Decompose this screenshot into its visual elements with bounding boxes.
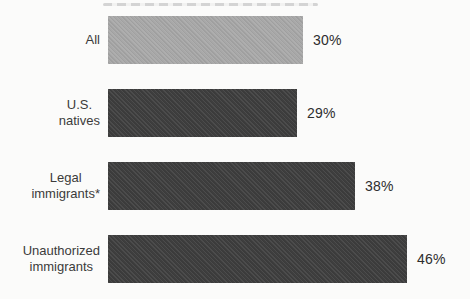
bar-area: 46% (108, 235, 470, 283)
category-label-us-natives: U.S. natives (0, 97, 108, 129)
value-label-all: 30% (313, 32, 342, 48)
category-label-legal-immigrants: Legal immigrants* (0, 170, 108, 202)
bar-all (108, 16, 303, 64)
bar-area: 38% (108, 162, 470, 210)
category-label-line: natives (59, 113, 100, 129)
category-label-all: All (0, 32, 108, 48)
category-label-unauthorized-immigrants: Unauthorized immigrants (0, 243, 108, 275)
bar-row-all: All 30% (0, 16, 470, 64)
category-label-line: Unauthorized (23, 243, 100, 259)
category-label-line: Legal (31, 170, 100, 186)
category-label-line: immigrants* (31, 186, 100, 202)
cropped-title-artifact (103, 3, 318, 6)
bar-area: 29% (108, 89, 470, 137)
value-label-us-natives: 29% (307, 105, 336, 121)
value-label-legal-immigrants: 38% (365, 178, 394, 194)
category-label-line: immigrants (23, 259, 100, 275)
bar-unauthorized-immigrants (108, 235, 407, 283)
category-label-line: U.S. (59, 97, 100, 113)
bar-area: 30% (108, 16, 470, 64)
value-label-unauthorized-immigrants: 46% (417, 251, 446, 267)
bar-row-legal-immigrants: Legal immigrants* 38% (0, 162, 470, 210)
category-label-line: All (86, 32, 100, 48)
bar-us-natives (108, 89, 297, 137)
bar-row-unauthorized-immigrants: Unauthorized immigrants 46% (0, 235, 470, 283)
horizontal-bar-chart: All 30% U.S. natives 29% Legal immigrant… (0, 0, 470, 299)
bar-legal-immigrants (108, 162, 355, 210)
bar-row-us-natives: U.S. natives 29% (0, 89, 470, 137)
